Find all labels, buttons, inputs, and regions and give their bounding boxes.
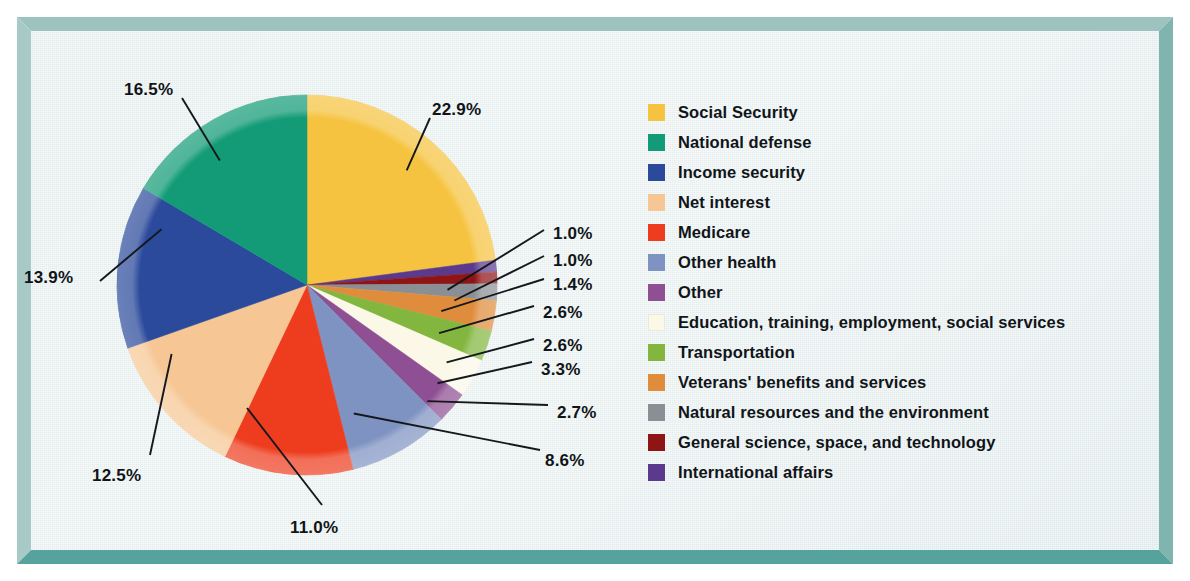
legend-color-swatch — [648, 284, 665, 301]
pie-percentage-label: 1.0% — [553, 251, 593, 271]
legend-color-swatch — [648, 134, 665, 151]
legend-color-swatch — [648, 164, 665, 181]
legend-item-label: Education, training, employment, social … — [678, 313, 1065, 332]
legend-item[interactable]: International affairs — [648, 457, 1065, 487]
legend-item-label: Medicare — [678, 223, 750, 242]
legend-color-swatch — [648, 374, 665, 391]
legend-item-label: Social Security — [678, 103, 798, 122]
pie-percentage-label: 1.4% — [553, 275, 593, 295]
legend-item-label: Transportation — [678, 343, 795, 362]
legend-color-swatch — [648, 344, 665, 361]
pie-percentage-label: 12.5% — [92, 466, 141, 486]
pie-percentage-label: 22.9% — [432, 100, 481, 120]
legend-color-swatch — [648, 254, 665, 271]
pie-percentage-label: 2.6% — [543, 336, 583, 356]
legend-item[interactable]: Social Security — [648, 97, 1065, 127]
chart-legend: Social SecurityNational defenseIncome se… — [648, 97, 1065, 487]
legend-item[interactable]: Net interest — [648, 187, 1065, 217]
legend-item[interactable]: Other health — [648, 247, 1065, 277]
pie-percentage-label: 11.0% — [290, 518, 338, 538]
pie-percentage-label: 8.6% — [545, 451, 585, 471]
legend-item[interactable]: Other — [648, 277, 1065, 307]
legend-item[interactable]: General science, space, and technology — [648, 427, 1065, 457]
legend-item-label: General science, space, and technology — [678, 433, 995, 452]
legend-item[interactable]: Transportation — [648, 337, 1065, 367]
pie-percentage-label: 16.5% — [124, 80, 173, 100]
legend-item-label: Income security — [678, 163, 805, 182]
pie-percentage-label: 3.3% — [541, 360, 581, 380]
pie-rim-highlight — [117, 95, 497, 475]
legend-item[interactable]: Education, training, employment, social … — [648, 307, 1065, 337]
legend-item[interactable]: Income security — [648, 157, 1065, 187]
legend-item-label: International affairs — [678, 463, 833, 482]
legend-item[interactable]: Veterans' benefits and services — [648, 367, 1065, 397]
legend-item-label: Net interest — [678, 193, 770, 212]
pie-percentage-label: 2.7% — [557, 403, 597, 423]
legend-item-label: Other — [678, 283, 723, 302]
legend-color-swatch — [648, 104, 665, 121]
legend-item-label: Veterans' benefits and services — [678, 373, 926, 392]
pie-percentage-label: 1.0% — [553, 224, 593, 244]
legend-item-label: Other health — [678, 253, 776, 272]
legend-color-swatch — [648, 314, 665, 331]
legend-color-swatch — [648, 464, 665, 481]
legend-item-label: National defense — [678, 133, 812, 152]
legend-color-swatch — [648, 434, 665, 451]
legend-item[interactable]: National defense — [648, 127, 1065, 157]
legend-item-label: Natural resources and the environment — [678, 403, 989, 422]
legend-color-swatch — [648, 224, 665, 241]
pie-percentage-label: 2.6% — [543, 303, 583, 323]
legend-color-swatch — [648, 194, 665, 211]
pie-percentage-label: 13.9% — [24, 268, 73, 288]
legend-item[interactable]: Natural resources and the environment — [648, 397, 1065, 427]
legend-color-swatch — [648, 404, 665, 421]
legend-item[interactable]: Medicare — [648, 217, 1065, 247]
